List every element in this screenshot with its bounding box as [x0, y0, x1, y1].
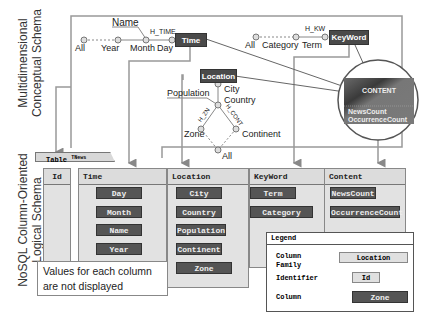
legend-label-column: Column [276, 293, 301, 301]
note-box: Values for each column are not displayed [37, 261, 168, 296]
column-occurrencecount[interactable]: OccurrenceCount [330, 206, 400, 218]
dimension-time[interactable]: Time [175, 33, 207, 47]
dimension-location[interactable]: Location [200, 69, 237, 83]
table-superscript: TNews [71, 155, 86, 161]
column-year[interactable]: Year [96, 243, 142, 255]
level-day: Day [157, 43, 173, 53]
note-line: Values for each column [43, 264, 162, 279]
legend-title: Legend [267, 233, 413, 245]
label-line: Multidimensional [16, 8, 30, 118]
note-line: are not displayed [43, 279, 162, 294]
label-line: NoSQL Column-Oriented [16, 150, 30, 290]
family-header: KeyWord [250, 169, 330, 185]
fact-measures: NewsCount OccurrenceCount [348, 108, 407, 124]
column-name[interactable]: Name [96, 224, 142, 236]
table-label: Table TNews [35, 152, 115, 162]
legend-text: Column [276, 252, 301, 261]
level-continent: Continent [242, 129, 281, 139]
family-header: Id [44, 169, 70, 185]
attribute-population: Population [167, 88, 210, 98]
column-country[interactable]: Country [176, 206, 222, 218]
dimension-keyword[interactable]: KeyWord [329, 30, 369, 45]
level-zone: Zone [184, 129, 205, 139]
level-year: Year [101, 43, 119, 53]
family-header: Time [79, 169, 166, 185]
column-zone[interactable]: Zone [176, 262, 232, 274]
column-day[interactable]: Day [96, 187, 142, 199]
attribute-name: Name [112, 17, 139, 28]
legend-text: Family [276, 261, 301, 270]
column-newscount[interactable]: NewsCount [330, 187, 376, 199]
hierarchy-h-time: H_TIME [150, 28, 176, 35]
level-all: All [75, 43, 85, 53]
measure-occurrencecount: OccurrenceCount [348, 116, 407, 124]
column-month[interactable]: Month [96, 206, 142, 218]
family-header: Content [325, 169, 405, 185]
legend-label-column-family: Column Family [276, 252, 301, 270]
column-city[interactable]: City [176, 187, 222, 199]
legend-sample-identifier: Id [352, 272, 380, 283]
label-line: Conceptual Schema [30, 8, 44, 118]
legend-sample-column: Zone [352, 291, 408, 303]
column-term[interactable]: Term [250, 187, 296, 199]
column-continent[interactable]: Continent [176, 243, 222, 255]
level-all: All [245, 40, 255, 50]
level-all: All [222, 151, 232, 161]
level-category: Category [262, 40, 299, 50]
family-header: Location [168, 169, 248, 185]
column-category[interactable]: Category [250, 206, 313, 218]
hierarchy-h-kw: H_KW [305, 25, 325, 32]
measure-newscount: NewsCount [348, 108, 407, 116]
level-month: Month [130, 43, 155, 53]
column-population[interactable]: Population [176, 224, 226, 236]
conceptual-schema-label: Multidimensional Conceptual Schema [16, 8, 44, 118]
level-city: City [224, 84, 240, 94]
legend-sample-family: Location [339, 252, 408, 263]
fact-content[interactable]: CONTENT [344, 87, 414, 94]
legend-label-identifier: Identifier [276, 274, 318, 282]
level-term: Term [302, 40, 322, 50]
